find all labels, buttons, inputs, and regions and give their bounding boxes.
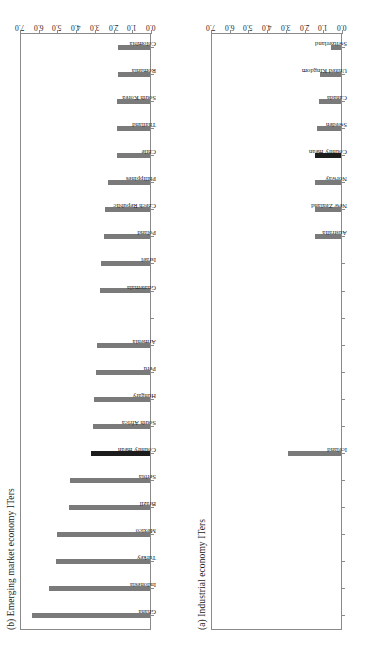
- category-label-slot: Switzerland: [346, 34, 382, 61]
- tick-mark: [342, 399, 345, 400]
- bar-slot: [212, 115, 341, 142]
- category-label: Norway: [325, 176, 347, 183]
- bar-slot: [21, 61, 150, 88]
- category-label-slot: Thailand: [155, 116, 191, 143]
- category-label: New Zealand: [311, 203, 347, 210]
- bar-slot: [21, 602, 150, 629]
- category-label: Iceland: [327, 447, 347, 454]
- category-label: Australia: [322, 230, 347, 237]
- value-axis-industrial: 0.01.02.03.04.05.06.07.0: [211, 0, 342, 34]
- tick-mark: [342, 615, 345, 616]
- category-label: Czech Republic: [113, 203, 156, 210]
- category-label: Turkey: [137, 555, 156, 562]
- bar-slot: [21, 331, 150, 358]
- value-tick-label: 3.0: [90, 23, 100, 32]
- category-label: South Korea: [122, 95, 156, 102]
- category-label-slot: Poland: [155, 224, 191, 251]
- category-label-slot: Country mean: [155, 440, 191, 467]
- category-label: Guatemala: [127, 285, 156, 292]
- bar-slot: [212, 521, 341, 548]
- plot-area-industrial: [211, 34, 342, 630]
- tick-mark: [342, 534, 345, 535]
- tick-mark: [342, 372, 345, 373]
- category-labels-industrial: IcelandAustraliaNew ZealandNorwayCountry…: [346, 34, 382, 630]
- category-label: South Africa: [122, 420, 156, 427]
- bar-slot: [21, 521, 150, 548]
- category-label-slot: [346, 576, 382, 603]
- bar-slot: [21, 142, 150, 169]
- bar: [32, 613, 150, 618]
- category-label: Brazil: [140, 501, 156, 508]
- bar-slot: [21, 359, 150, 386]
- category-label-slot: Romania: [155, 61, 191, 88]
- category-label: Ghana: [139, 609, 156, 616]
- category-label: Sweden: [326, 122, 347, 129]
- category-label-slot: [346, 251, 382, 278]
- value-tick-label: 7.0: [15, 23, 25, 32]
- category-label-slot: [346, 495, 382, 522]
- bar-slot: [212, 88, 341, 115]
- tick-mark: [151, 318, 154, 319]
- category-label-slot: Indonesia: [155, 576, 191, 603]
- panel-title-industrial: (a) Industrial economy ITers: [197, 519, 207, 630]
- tick-mark: [342, 426, 345, 427]
- figure: (b) Emerging market economy ITers GhanaI…: [0, 0, 383, 664]
- category-label-slot: Philippines: [155, 170, 191, 197]
- category-label-slot: Iceland: [346, 440, 382, 467]
- category-label: Colombia: [130, 41, 156, 48]
- value-tick-label: 6.0: [34, 23, 44, 32]
- category-label: Chile: [141, 149, 156, 156]
- bar-slot: [212, 548, 341, 575]
- category-label-slot: Brazil: [155, 495, 191, 522]
- category-label-slot: South Africa: [155, 413, 191, 440]
- value-tick-label: 6.0: [225, 23, 235, 32]
- category-label-slot: Australia: [346, 224, 382, 251]
- bar: [69, 505, 150, 510]
- category-label: Hungary: [133, 393, 156, 400]
- bar: [96, 370, 150, 375]
- bar-series-industrial: [212, 34, 341, 629]
- value-tick-label: 3.0: [281, 23, 291, 32]
- category-label-slot: Hungary: [155, 386, 191, 413]
- category-label-slot: United Kingdom: [346, 61, 382, 88]
- tick-mark: [342, 291, 345, 292]
- value-tick-label: 0.0: [337, 23, 347, 32]
- category-label-slot: Norway: [346, 170, 382, 197]
- category-label: Serbia: [139, 474, 156, 481]
- bar-series-emerging: [21, 34, 150, 629]
- value-axis-emerging: 0.01.02.03.04.05.06.07.0: [20, 0, 151, 34]
- category-label-slot: Mexico: [155, 522, 191, 549]
- category-label: Philippines: [126, 176, 156, 183]
- category-label: Armenia: [133, 339, 156, 346]
- value-tick-label: 2.0: [109, 23, 119, 32]
- category-label-slot: [346, 549, 382, 576]
- category-label: Country mean: [118, 447, 156, 454]
- category-label-slot: [346, 305, 382, 332]
- tick-mark: [342, 588, 345, 589]
- bar-slot: [21, 494, 150, 521]
- category-label: Switzerland: [315, 41, 347, 48]
- category-label-slot: Sweden: [346, 116, 382, 143]
- bar-slot: [21, 467, 150, 494]
- panel-emerging-market: (b) Emerging market economy ITers GhanaI…: [0, 0, 191, 664]
- category-label-slot: Peru: [155, 359, 191, 386]
- category-label: Country mean: [309, 149, 347, 156]
- category-label: United Kingdom: [302, 68, 347, 75]
- category-label: Romania: [132, 68, 156, 75]
- value-tick-label: 4.0: [71, 23, 81, 32]
- category-label: Poland: [137, 230, 156, 237]
- category-label-slot: [346, 386, 382, 413]
- bar-slot: [21, 223, 150, 250]
- tick-mark: [342, 263, 345, 264]
- tick-mark: [342, 561, 345, 562]
- category-label-slot: [346, 468, 382, 495]
- bar-slot: [212, 467, 341, 494]
- category-labels-emerging: GhanaIndonesiaTurkeyMexicoBrazilSerbiaCo…: [155, 34, 191, 630]
- category-label: Peru: [144, 366, 156, 373]
- bar-slot: [212, 331, 341, 358]
- bar-slot: [21, 548, 150, 575]
- category-label-slot: Canada: [346, 88, 382, 115]
- bar-slot: [212, 304, 341, 331]
- category-label: Indonesia: [130, 582, 156, 589]
- category-label-slot: Armenia: [155, 332, 191, 359]
